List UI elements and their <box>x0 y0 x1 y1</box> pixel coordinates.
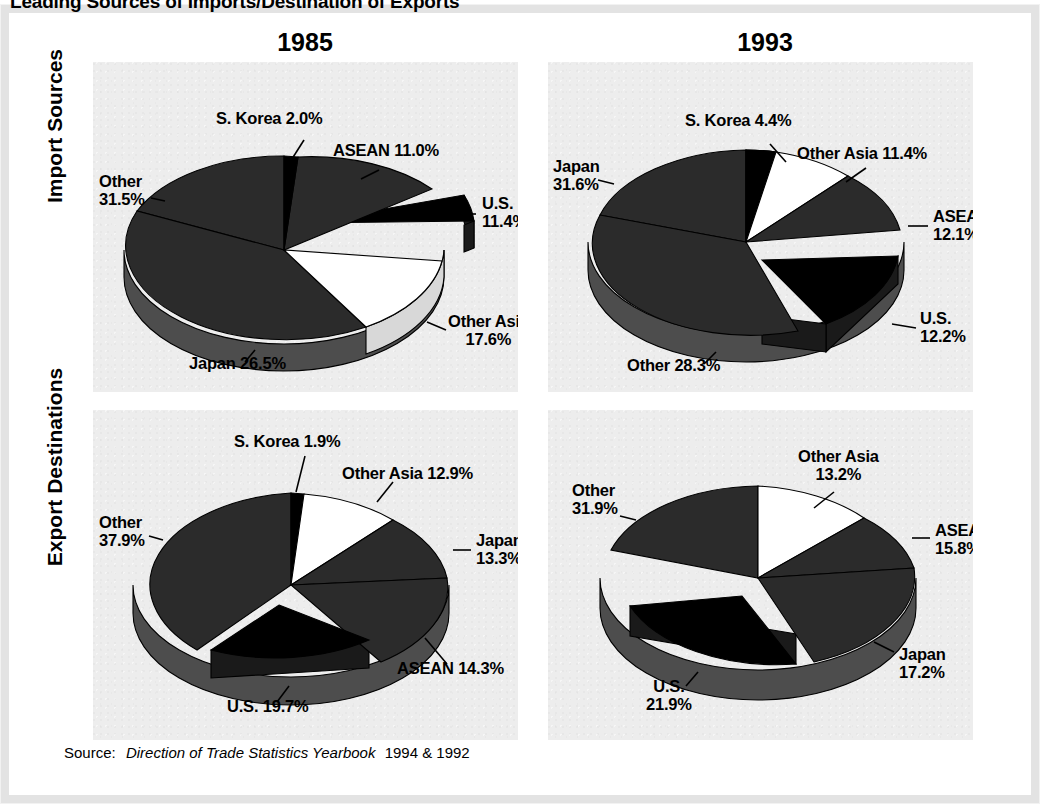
slice-label-other: Other 28.3% <box>627 357 720 375</box>
slice-label-us: U.S. 11.4% <box>482 195 518 231</box>
slice-label-asean: ASEAN 15.8% <box>935 522 973 558</box>
slice-label-us: U.S. 12.2% <box>920 310 966 346</box>
source-prefix: Source: <box>64 744 116 761</box>
slice-label-skorea: S. Korea 4.4% <box>685 112 792 130</box>
column-header-1993: 1993 <box>665 28 865 57</box>
slice-label-other: Other 31.9% <box>572 482 618 518</box>
source-note: Source: Direction of Trade Statistics Ye… <box>64 744 470 761</box>
pie-chart-1993-import-sources: S. Korea 4.4% Other Asia 11.4% ASEAN 12.… <box>548 62 973 392</box>
slice-label-us: U.S. 21.9% <box>646 678 692 714</box>
slice-label-japan: Japan 26.5% <box>189 355 286 373</box>
pie-svg-1993-exports <box>548 410 973 740</box>
slice-label-otherasia: Other Asia 12.9% <box>342 465 473 483</box>
pie-svg-1985-exports <box>93 410 518 740</box>
slice-label-other: Other 37.9% <box>99 514 145 550</box>
pie-slices <box>592 150 900 335</box>
slice-label-skorea: S. Korea 2.0% <box>216 110 323 128</box>
slice-label-other: Other 31.5% <box>99 173 145 209</box>
row-label-import-sources: Import Sources <box>43 0 67 266</box>
slice-label-us: U.S. 19.7% <box>227 698 308 716</box>
column-header-1985: 1985 <box>205 28 405 57</box>
slice-label-otherasia: Other Asia 11.4% <box>797 145 927 163</box>
source-years: 1994 & 1992 <box>385 744 470 761</box>
pie-chart-1993-export-destinations: Other Asia 13.2% ASEAN 15.8% Japan 17.2%… <box>548 410 973 740</box>
pie-chart-1985-export-destinations: S. Korea 1.9% Other Asia 12.9% Japan 13.… <box>93 410 518 740</box>
pie-slices <box>150 493 448 662</box>
source-publication-title: Direction of Trade Statistics Yearbook <box>126 744 376 761</box>
pie-chart-1985-import-sources: S. Korea 2.0% ASEAN 11.0% U.S. 11.4% Oth… <box>93 62 518 392</box>
slice-label-otherasia: Other Asia 13.2% <box>798 448 879 484</box>
slice-label-japan: Japan 17.2% <box>899 646 946 682</box>
slice-label-japan: Japan 31.6% <box>553 158 600 194</box>
page-title: Leading Sources of Imports/Destination o… <box>10 0 459 13</box>
slice-label-japan: Japan 13.3% <box>476 532 518 568</box>
slice-label-asean: ASEAN 14.3% <box>397 660 504 678</box>
slice-label-asean: ASEAN 11.0% <box>333 142 439 160</box>
slice-label-otherasia: Other Asia 17.6% <box>448 313 518 349</box>
slice-label-skorea: S. Korea 1.9% <box>234 433 341 451</box>
slice-label-asean: ASEAN 12.1% <box>933 208 973 244</box>
row-label-export-destinations: Export Destinations <box>43 327 67 607</box>
